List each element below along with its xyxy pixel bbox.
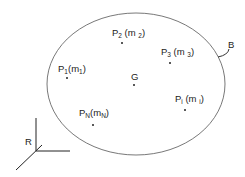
point-p1 — [66, 77, 68, 79]
point-pi-label: Pi (m i) — [175, 94, 204, 106]
point-pn-label: PN(mN) — [79, 108, 109, 120]
body-b-leader — [218, 49, 229, 57]
point-pn — [92, 124, 94, 126]
point-p3-label: P3 (m 3) — [161, 47, 194, 59]
point-p2 — [121, 42, 123, 44]
point-p1-label: P1(m1) — [58, 64, 86, 76]
frame-r-label: R — [25, 137, 32, 147]
point-p2-label: P2 (m 2) — [112, 28, 145, 40]
center-of-mass-point — [133, 84, 135, 86]
point-pi — [184, 109, 186, 111]
point-p3 — [169, 62, 171, 64]
body-b-label: B — [228, 40, 234, 50]
center-of-mass-label: G — [131, 72, 138, 82]
